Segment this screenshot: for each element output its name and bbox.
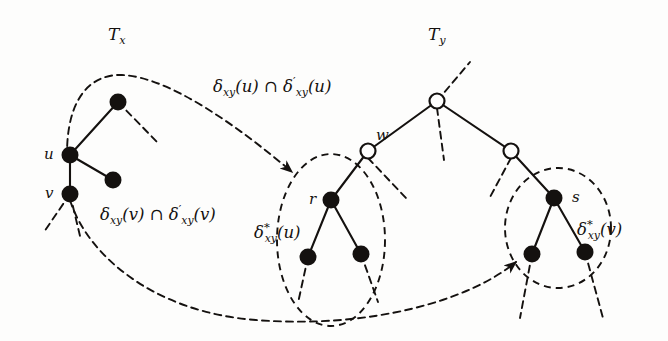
tree-ty-edges <box>308 101 585 257</box>
label-node-u: u <box>44 147 54 162</box>
node-v <box>62 186 79 203</box>
edge-s-leftleaf <box>532 198 554 254</box>
stub-ty-root-down <box>437 108 444 160</box>
stub-sleft-down <box>520 254 532 318</box>
node-ty-root <box>430 94 445 109</box>
tree-mapping-figure: Tx Ty u v w r s δxy(u) ∩ δ′xy(u) δxy(v) … <box>0 0 668 341</box>
diagram-canvas <box>0 0 668 341</box>
label-tree-ty: Ty <box>428 26 446 47</box>
edge-r-leftleaf <box>308 200 331 257</box>
edge-txtop-u <box>70 102 118 155</box>
label-node-v: v <box>45 186 53 201</box>
stub-right-down-left <box>489 158 511 199</box>
node-s <box>546 190 563 207</box>
node-r <box>323 192 340 209</box>
label-node-r: r <box>309 192 316 207</box>
label-delta-star-v: δ*xy(v) <box>577 219 622 242</box>
node-ty-right <box>504 144 519 159</box>
label-delta-u-intersect: δxy(u) ∩ δ′xy(u) <box>213 76 331 99</box>
edge-r-rightleaf <box>331 200 361 254</box>
filled-nodes <box>62 94 594 266</box>
label-node-w: w <box>376 128 389 143</box>
label-delta-star-u: δ*xy(u) <box>254 222 301 245</box>
node-s-right-leaf <box>577 244 594 261</box>
node-r-left-leaf <box>300 249 317 266</box>
node-tx-top <box>110 94 127 111</box>
node-u-child <box>105 172 122 189</box>
node-s-left-leaf <box>524 246 541 263</box>
node-u <box>62 147 79 164</box>
node-w <box>361 144 376 159</box>
label-node-s: s <box>572 190 580 205</box>
tree-ty-dashed-stubs <box>298 62 603 318</box>
label-tree-tx: Tx <box>108 26 126 47</box>
edge-root-right <box>437 101 511 151</box>
stub-sright-down <box>585 252 603 318</box>
node-r-right-leaf <box>353 246 370 263</box>
label-delta-v-intersect: δxy(v) ∩ δ′xy(v) <box>100 204 216 227</box>
stub-w-down-right <box>368 158 406 198</box>
